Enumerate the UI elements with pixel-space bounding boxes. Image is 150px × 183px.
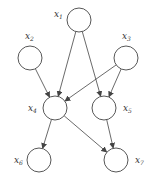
edge-x4-x6 <box>43 119 52 148</box>
edge-x4-x7 <box>64 116 106 152</box>
node-label: x6 <box>14 155 23 166</box>
edge-x5-x7 <box>107 120 113 148</box>
node-x3: x3 <box>114 31 138 70</box>
edges <box>35 32 121 152</box>
edge-x3-x5 <box>109 69 121 97</box>
node-x5: x5 <box>92 96 132 120</box>
node-x2: x2 <box>18 31 42 70</box>
node-circle <box>43 96 67 120</box>
node-x7: x7 <box>104 148 144 172</box>
bayesian-network-diagram: x1x2x3x4x5x6x7 <box>0 0 150 183</box>
node-circle <box>27 148 51 172</box>
nodes: x1x2x3x4x5x6x7 <box>14 8 144 172</box>
node-label: x5 <box>123 103 132 114</box>
node-circle <box>114 46 138 70</box>
edge-x1-x5 <box>82 32 100 96</box>
node-label: x4 <box>28 103 37 114</box>
node-circle <box>18 46 42 70</box>
edge-x1-x4 <box>58 32 76 96</box>
node-label: x2 <box>25 31 34 42</box>
node-circle <box>67 8 91 32</box>
node-x4: x4 <box>28 96 67 120</box>
edge-x2-x4 <box>35 69 49 97</box>
node-x6: x6 <box>14 148 51 172</box>
node-label: x1 <box>54 9 63 20</box>
edge-x3-x4 <box>65 65 116 101</box>
node-label: x3 <box>122 31 131 42</box>
node-x1: x1 <box>54 8 91 32</box>
node-circle <box>92 96 116 120</box>
node-label: x7 <box>135 155 144 166</box>
node-circle <box>104 148 128 172</box>
